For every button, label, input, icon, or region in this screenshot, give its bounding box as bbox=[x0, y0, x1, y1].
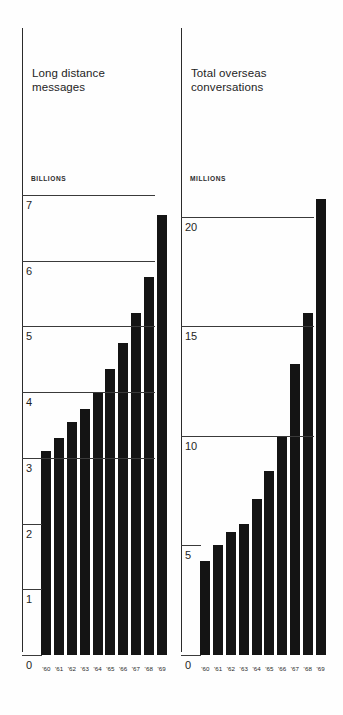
y-tick-label-15: 15 bbox=[185, 330, 197, 342]
panel-title-long-distance-messages: Long distance messages bbox=[32, 66, 105, 94]
bar-y63 bbox=[239, 524, 249, 655]
bar-series-left bbox=[22, 195, 170, 655]
gridline-10 bbox=[181, 436, 314, 437]
bar-y60 bbox=[41, 451, 51, 655]
gridline-20 bbox=[181, 217, 314, 218]
bar-y63 bbox=[80, 409, 90, 655]
unit-label-millions: MILLIONS bbox=[190, 175, 226, 182]
y-tick-label-7: 7 bbox=[26, 199, 32, 211]
gridline-0 bbox=[22, 655, 42, 656]
bar-y64 bbox=[93, 392, 103, 655]
gridline-3 bbox=[22, 458, 155, 459]
gridline-0 bbox=[181, 655, 201, 656]
bar-y66 bbox=[277, 436, 287, 655]
y-tick-label-10: 10 bbox=[185, 440, 197, 452]
gridline-6 bbox=[22, 261, 155, 262]
gridline-5 bbox=[181, 545, 201, 546]
panel-long-distance-messages: Long distance messages BILLIONS 01234567… bbox=[22, 28, 170, 688]
bar-y62 bbox=[67, 422, 77, 655]
gridline-2 bbox=[22, 524, 42, 525]
gridline-7 bbox=[22, 195, 155, 196]
unit-label-billions: BILLIONS bbox=[31, 175, 66, 182]
gridline-5 bbox=[22, 326, 155, 327]
y-tick-label-5: 5 bbox=[185, 549, 191, 561]
panel-total-overseas-conversations: Total overseas conversations MILLIONS 05… bbox=[181, 28, 329, 688]
bar-y65 bbox=[264, 471, 274, 655]
bar-y64 bbox=[252, 499, 262, 655]
y-tick-label-20: 20 bbox=[185, 221, 197, 233]
y-tick-label-5: 5 bbox=[26, 330, 32, 342]
x-tick-label-y69: '69 bbox=[312, 665, 329, 672]
x-tick-label-y69: '69 bbox=[153, 665, 170, 672]
x-axis-labels-left: '60'61'62'63'64'65'66'67'68'69 bbox=[22, 665, 170, 677]
bar-y66 bbox=[118, 343, 128, 655]
gridline-15 bbox=[181, 326, 314, 327]
bar-y69 bbox=[157, 215, 167, 655]
y-tick-label-1: 1 bbox=[26, 593, 32, 605]
y-tick-label-4: 4 bbox=[26, 396, 32, 408]
bar-y69 bbox=[316, 199, 326, 655]
bar-y67 bbox=[290, 364, 300, 655]
gridline-4 bbox=[22, 392, 155, 393]
y-tick-label-6: 6 bbox=[26, 265, 32, 277]
bar-y61 bbox=[54, 438, 64, 655]
gridline-1 bbox=[22, 589, 42, 590]
plot-area-right: 05101520 bbox=[181, 195, 329, 655]
x-axis-labels-right: '60'61'62'63'64'65'66'67'68'69 bbox=[181, 665, 329, 677]
y-tick-label-3: 3 bbox=[26, 462, 32, 474]
panel-title-total-overseas-conversations: Total overseas conversations bbox=[191, 66, 267, 94]
bar-y61 bbox=[213, 545, 223, 655]
bar-y62 bbox=[226, 532, 236, 655]
bar-y68 bbox=[144, 277, 154, 655]
bar-series-right bbox=[181, 195, 329, 655]
plot-area-left: 01234567 bbox=[22, 195, 170, 655]
bar-y65 bbox=[105, 369, 115, 655]
chart-figure: Long distance messages BILLIONS 01234567… bbox=[0, 0, 343, 715]
y-tick-label-2: 2 bbox=[26, 528, 32, 540]
bar-y67 bbox=[131, 313, 141, 655]
bar-y68 bbox=[303, 313, 313, 655]
bar-y60 bbox=[200, 561, 210, 655]
